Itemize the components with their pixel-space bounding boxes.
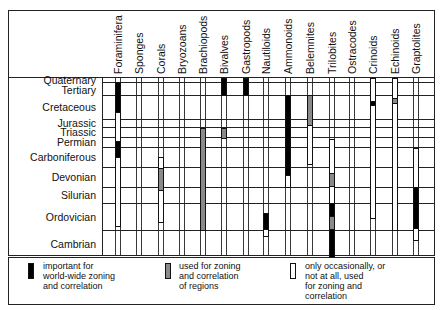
group-header: Crinoids [367,35,379,74]
group-header: Bivalves [218,35,230,74]
period-label: Cambrian [50,238,96,250]
bar-segment-important [330,204,335,217]
fossil-zoning-chart: ForaminiferaSpongesCoralsBryozoansBrachi… [0,0,442,310]
period-label: Silurian [61,189,96,201]
bar-segment-occasional [116,113,121,142]
legend-text: world-wide zoning [42,271,115,281]
bar-segment-occasional [393,104,398,231]
bar-trilobites [330,140,335,258]
legend-text: correlation [305,291,347,301]
period-label: Devonian [52,171,97,183]
bar-nautiloids [264,214,269,237]
bar-segment-occasional [414,229,419,241]
bar-segment-important [286,96,291,176]
group-header: Foraminifera [112,15,124,74]
group-header: Bryozoans [176,24,188,74]
legend-text: and correlation [43,281,103,291]
group-header: Corals [155,44,167,74]
bar-segment-regional [330,174,335,187]
period-label: Permian [57,136,96,148]
bar-segment-occasional [308,126,313,165]
bar-segment-important [116,142,121,158]
legend-text: only occasionally, or [305,261,385,271]
legend-text: and correlation [179,271,239,281]
bar-segment-occasional [264,230,269,237]
bar-segment-regional [222,129,227,139]
bar-gastropods [244,79,249,96]
legend-text: of regions [179,281,219,291]
bar-segment-regional [201,129,206,231]
group-header: Brachiopods [197,16,209,74]
legend-swatch [166,264,171,279]
group-header: Nautiloids [260,28,272,74]
legend-text: not at all, used [305,271,364,281]
bar-belemnites [308,96,313,165]
bar-segment-important [371,102,376,106]
bar-segment-regional [393,99,398,104]
legend-swatch [29,264,34,279]
group-header: Sponges [133,33,145,74]
legend-text: for zoning and [305,281,362,291]
bar-segment-occasional [286,176,291,188]
bar-corals [159,158,164,223]
period-label: Cretaceous [42,101,96,113]
group-header: Ostracodes [346,20,358,74]
group-header: Echinoids [389,28,401,74]
bar-segment-occasional [159,158,164,169]
bar-segment-important [116,83,121,113]
bar-segment-regional [308,96,313,126]
bar-segment-important [264,214,269,230]
bar-segment-occasional [116,158,121,227]
group-header: Belemnites [304,22,316,74]
legend-swatch [291,264,296,279]
group-header: Graptolites [410,23,422,74]
bar-segment-occasional [159,191,164,223]
bar-crinoids [371,79,376,219]
bar-segment-occasional [330,140,335,174]
legend-text: important for [43,261,94,271]
period-label: Ordovician [46,211,96,223]
bar-segment-occasional [371,106,376,219]
bar-segment-occasional [393,79,398,99]
bar-segment-occasional [371,79,376,102]
bar-foraminifera [116,83,121,227]
period-label: Carboniferous [30,151,96,163]
bar-graptolites [414,149,419,241]
bar-segment-important [330,230,335,258]
group-header: Ammonoids [282,19,294,74]
group-header: Trilobites [326,32,338,74]
bar-segment-important [222,79,227,96]
bar-segment-regional [330,217,335,230]
bar-ammonoids [286,96,291,188]
period-label: Tertiary [62,84,97,96]
bar-segment-important [414,188,419,229]
bar-brachiopods [201,129,206,231]
bar-echinoids [393,79,398,231]
bar-segment-important [244,79,249,96]
bar-segment-occasional [414,149,419,188]
bar-segment-occasional [330,187,335,204]
legend-text: used for zoning [179,261,241,271]
bar-segment-regional [159,169,164,191]
group-header: Gastropods [240,20,252,74]
